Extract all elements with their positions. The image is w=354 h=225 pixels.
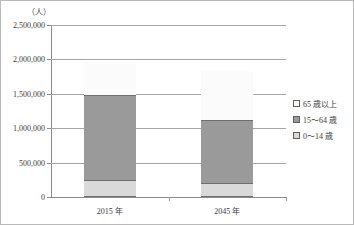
- legend-swatch-15-to-64-icon: [293, 116, 300, 123]
- bar-segment-0-to-14-1[interactable]: [84, 181, 136, 196]
- legend-swatch-0-to-14-icon: [293, 132, 300, 139]
- bar-segment-15-to-64-1[interactable]: [84, 95, 136, 181]
- bar-stack-2[interactable]: [201, 72, 253, 197]
- x-tick-label-2: 2045 年: [214, 205, 240, 216]
- legend-label-15-to-64: 15～64 歳: [303, 114, 337, 125]
- bar-group-2[interactable]: 2045 年: [201, 25, 253, 197]
- bar-segment-15-to-64-2[interactable]: [201, 120, 253, 184]
- bar-stack-1[interactable]: [84, 64, 136, 197]
- y-tick-mark-1500000: [47, 94, 51, 95]
- y-tick-label-2500000: 2,500,000: [13, 21, 45, 30]
- legend-item-65-and-over[interactable]: 65 歳以上: [293, 95, 353, 111]
- y-tick-label-1500000: 1,500,000: [13, 89, 45, 98]
- x-tick-label-1: 2015 年: [97, 205, 123, 216]
- y-tick-label-500000: 500,000: [19, 158, 45, 167]
- legend-label-0-to-14: 0～14 歳: [303, 130, 333, 141]
- x-minor-tick-1: [169, 197, 170, 201]
- y-tick-mark-2000000: [47, 59, 51, 60]
- legend-swatch-65-and-over-icon: [293, 100, 300, 107]
- y-axis-unit-label: （人）: [27, 6, 51, 17]
- bar-group-1[interactable]: 2015 年: [84, 25, 136, 197]
- bar-segment-0-to-14-2[interactable]: [201, 184, 253, 196]
- y-tick-label-0: 0: [41, 193, 45, 202]
- y-tick-label-1000000: 1,000,000: [13, 124, 45, 133]
- bar-segment-65-and-over-1[interactable]: [84, 63, 136, 95]
- legend-item-0-to-14[interactable]: 0～14 歳: [293, 127, 353, 143]
- population-stacked-bar-chart: （人） 0500,0001,000,0001,500,0002,000,0002…: [0, 0, 354, 225]
- x-minor-tick-2: [286, 197, 287, 201]
- bar-segment-65-and-over-2[interactable]: [201, 71, 253, 120]
- legend-label-65-and-over: 65 歳以上: [303, 98, 337, 109]
- y-tick-mark-0: [47, 197, 51, 198]
- chart-legend: 65 歳以上 15～64 歳 0～14 歳: [293, 95, 353, 143]
- plot-area: 0500,0001,000,0001,500,0002,000,0002,500…: [51, 25, 286, 197]
- y-tick-mark-1000000: [47, 128, 51, 129]
- y-tick-mark-500000: [47, 163, 51, 164]
- y-axis-line: [51, 25, 52, 197]
- y-tick-mark-2500000: [47, 25, 51, 26]
- legend-item-15-to-64[interactable]: 15～64 歳: [293, 111, 353, 127]
- y-tick-label-2000000: 2,000,000: [13, 55, 45, 64]
